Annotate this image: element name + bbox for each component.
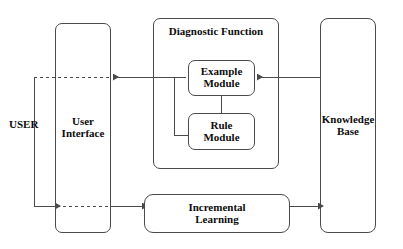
node-incremental-learning-line1: Incremental	[188, 202, 245, 214]
node-diagnostic-function-label: Diagnostic Function	[169, 26, 263, 38]
node-user-interface: User Interface	[55, 23, 111, 233]
wire-user-feedback-loop	[34, 77, 56, 206]
node-example-module: Example Module	[188, 60, 255, 96]
node-rule-module: Rule Module	[188, 113, 255, 150]
node-example-module-line2: Module	[201, 78, 243, 90]
node-incremental-learning: Incremental Learning	[144, 194, 290, 233]
node-rule-module-line2: Module	[203, 132, 239, 144]
node-user-interface-line2: Interface	[62, 128, 105, 140]
node-knowledge-base: Knowledge Base	[320, 18, 376, 233]
label-user: USER	[9, 118, 38, 130]
node-incremental-learning-line2: Learning	[188, 214, 245, 226]
architecture-diagram: USER User Interface Diagnostic Function …	[0, 0, 403, 249]
node-rule-module-line1: Rule	[203, 120, 239, 132]
node-knowledge-base-line2: Base	[322, 126, 375, 138]
node-knowledge-base-line1: Knowledge	[322, 114, 375, 126]
